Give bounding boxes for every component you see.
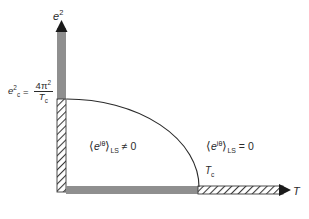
y-axis-solid-bar: [57, 28, 66, 99]
tc-tick-label: Tc: [205, 166, 214, 179]
ec-denominator-group: Tc: [37, 92, 50, 104]
phase-diagram-canvas: [0, 0, 309, 219]
ec-equals: =: [23, 87, 29, 97]
disordered-subscript: LS: [227, 147, 235, 154]
y-axis-label-exponent: 2: [59, 8, 63, 17]
critical-coupling-label: e2c = 4π2 Tc: [8, 80, 53, 104]
ordered-subscript: LS: [110, 147, 118, 154]
ec-numerator: 4π: [36, 80, 48, 91]
x-axis-arrowhead: [279, 184, 291, 196]
region-label-disordered: ⟨eiθ⟩LS= 0: [206, 140, 254, 155]
x-axis-label: T: [293, 186, 300, 197]
y-axis-hatched-bar: [57, 99, 66, 192]
ec-denominator-subscript: c: [45, 97, 48, 104]
x-axis-solid-bar: [66, 186, 198, 194]
region-label-ordered: ⟨eiθ⟩LS≠ 0: [89, 140, 136, 155]
ec-subscript: c: [17, 91, 20, 98]
y-axis-label: e2: [53, 9, 63, 22]
ec-fraction: 4π2 Tc: [34, 80, 53, 104]
y-axis-arrowhead: [56, 20, 68, 32]
ordered-relation: ≠ 0: [122, 140, 137, 152]
ec-numerator-exponent: 2: [47, 79, 51, 86]
tc-subscript: c: [211, 171, 214, 178]
ec-symbol-group: e2c: [8, 85, 20, 98]
disordered-relation: = 0: [239, 140, 254, 152]
x-axis-hatched-bar: [198, 186, 283, 194]
phase-diagram-figure: e2 T e2c = 4π2 Tc Tc ⟨eiθ⟩LS≠ 0 ⟨eiθ⟩LS=…: [0, 0, 309, 219]
